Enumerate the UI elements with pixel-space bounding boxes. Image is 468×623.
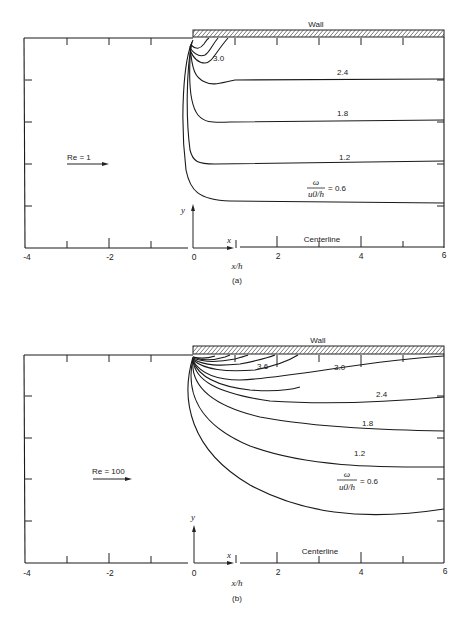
- x-axis-symbol: x: [226, 550, 231, 560]
- contour-label: 1.2: [339, 153, 351, 162]
- contour-1.2: [187, 42, 444, 164]
- x-axis-arrow-icon: [227, 561, 234, 565]
- flow-arrow-icon: [125, 477, 132, 481]
- x-tick-label: 6: [442, 250, 447, 260]
- x-tick-label: 4: [359, 567, 364, 577]
- x-tick-label: 0: [192, 568, 197, 578]
- x-tick-label: -4: [23, 252, 31, 262]
- ticks: [25, 355, 444, 563]
- wall-hatch: [193, 346, 444, 354]
- svg-text:= 0.6: = 0.6: [360, 477, 379, 486]
- x-tick-label: 0: [192, 252, 197, 262]
- contour-label: 3.0: [334, 363, 346, 372]
- contour-2.4: [190, 46, 444, 84]
- contour-1.2: [191, 358, 444, 467]
- contour-label: 1.8: [362, 419, 374, 428]
- legend-fraction: ω u0/h = 0.6: [337, 469, 379, 492]
- reynolds-label: Re = 1: [67, 153, 91, 162]
- centerline-label: Centerline: [304, 235, 341, 244]
- contour-label: 2.4: [376, 390, 388, 399]
- centerline-label: Centerline: [302, 547, 339, 556]
- flow-arrow-icon: [102, 162, 109, 166]
- svg-text:ω: ω: [313, 177, 319, 187]
- contour-4.5: [193, 356, 215, 358]
- contour-3.6: [191, 38, 209, 48]
- panel-b: Wall: [23, 336, 447, 603]
- y-ticks-left: [25, 38, 444, 248]
- contour-1.8: [190, 44, 444, 122]
- reynolds-label: Re = 100: [92, 467, 125, 476]
- x-axis-symbol: x: [226, 235, 231, 245]
- x-axis-label: x/h: [231, 578, 243, 588]
- svg-text:u0/h: u0/h: [308, 189, 325, 199]
- wall-hatch: [193, 30, 444, 37]
- y-axis-arrow-icon: [191, 204, 195, 211]
- panel-label: (a): [232, 276, 242, 285]
- contour-2.4: [193, 360, 444, 403]
- svg-text:ω: ω: [344, 469, 350, 479]
- y-axis-symbol: y: [190, 512, 195, 522]
- figure: Wall: [0, 0, 468, 623]
- svg-text:= 0.6: = 0.6: [328, 184, 347, 193]
- x-tick-label: -2: [106, 252, 114, 262]
- contour-label: 3.6: [257, 362, 269, 371]
- legend-fraction: ω u0/h = 0.6: [307, 177, 347, 199]
- svg-text:u0/h: u0/h: [339, 482, 356, 492]
- x-axis-arrow-icon: [227, 246, 234, 250]
- panel-a: Wall: [23, 20, 446, 285]
- x-tick-label: 6: [443, 566, 448, 576]
- x-tick-label: -2: [106, 568, 114, 578]
- contours: [188, 355, 444, 515]
- x-tick-label: -4: [23, 568, 31, 578]
- wall-label: Wall: [308, 20, 323, 29]
- contour-label: 2.4: [337, 68, 349, 77]
- wall-label: Wall: [310, 336, 325, 345]
- contour-1.8: [193, 359, 444, 431]
- x-tick-label: 4: [359, 251, 364, 261]
- contour-0.6: [188, 357, 444, 515]
- x-axis-label: x/h: [231, 261, 243, 271]
- x-tick-label: 2: [276, 251, 281, 261]
- y-axis-symbol: y: [180, 205, 185, 215]
- contour-label: 3.0: [213, 54, 225, 63]
- panel-label: (b): [232, 594, 242, 603]
- contour-label: 1.8: [337, 109, 349, 118]
- x-tick-label: 2: [276, 567, 281, 577]
- contour-label: 1.2: [354, 449, 366, 458]
- y-axis-arrow-icon: [192, 525, 196, 532]
